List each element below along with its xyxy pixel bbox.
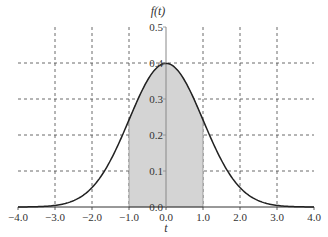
- y-tick-label: 0.5: [149, 21, 163, 33]
- y-tick-label: 0.0: [149, 201, 163, 213]
- y-tick-label: 0.3: [149, 93, 163, 105]
- y-tick-label: 0.1: [149, 165, 163, 177]
- x-tick-label: 3.0: [270, 211, 284, 223]
- x-axis-label: t: [164, 221, 168, 235]
- x-tick-label: −4.0: [8, 211, 28, 223]
- normal-distribution-chart: −4.0−3.0−2.0−1.00.01.02.03.04.0 0.00.10.…: [0, 0, 328, 237]
- y-axis-label: f(t): [151, 4, 166, 18]
- x-tick-label: 4.0: [307, 211, 321, 223]
- x-tick-label: 1.0: [196, 211, 210, 223]
- y-tick-label: 0.4: [149, 57, 163, 69]
- x-tick-label: −2.0: [82, 211, 102, 223]
- x-tick-label: −3.0: [45, 211, 65, 223]
- x-tick-label: −1.0: [119, 211, 139, 223]
- y-tick-label: 0.2: [149, 129, 163, 141]
- x-tick-label: 2.0: [233, 211, 247, 223]
